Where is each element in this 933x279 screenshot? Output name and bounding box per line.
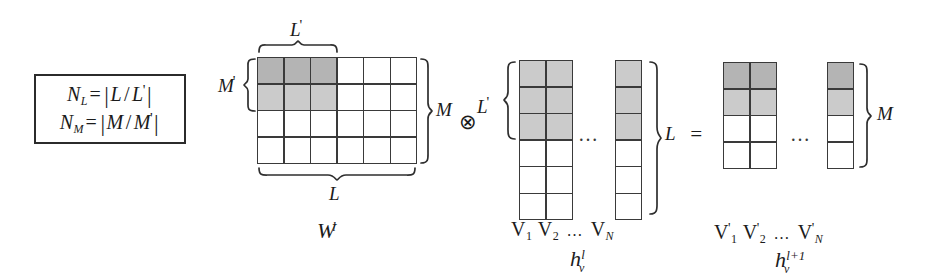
label-l-bottom: L (329, 184, 340, 203)
brace-l-prime-top (258, 40, 338, 53)
activation-cell (724, 116, 749, 141)
output-activation-ellipsis: … (790, 124, 812, 144)
activation-cell (520, 141, 545, 166)
matrix-cell (338, 85, 363, 110)
formula-lhs-subscript: M (74, 122, 84, 136)
activation-cell (751, 143, 776, 168)
activation-cell (828, 116, 853, 141)
label-output-activations-superscript: l+1 (786, 248, 805, 263)
formula-denominator-prime: ' (143, 82, 146, 98)
equals-sign: = (689, 124, 703, 145)
label-m-prime-left-letter: M (218, 75, 234, 96)
brace-l-bottom (258, 167, 416, 181)
activation-cell (616, 167, 641, 192)
column-label-vn-prime: V (798, 221, 813, 243)
activation-cell (616, 194, 641, 219)
label-l-prime-hv-letter: L (477, 96, 488, 117)
column-label-v1-prime-subscript: 1 (731, 232, 738, 246)
matrix-cell (364, 138, 389, 163)
label-m-right: M (436, 100, 452, 119)
matrix-cell (391, 58, 416, 83)
activation-cell (724, 143, 749, 168)
formula-line-n-sub-l: NL=|L/L'| (36, 82, 184, 109)
label-l-right-hv: L (665, 124, 676, 143)
column-label-v2-prime-subscript: 2 (760, 232, 767, 246)
formula-abs-bar-open: | (104, 83, 109, 109)
activation-cell (520, 114, 545, 139)
input-activation-ellipsis: … (578, 124, 600, 144)
matrix-cell (258, 58, 283, 83)
matrix-cell (391, 138, 416, 163)
formula-slash: / (124, 83, 130, 105)
output-activation-last-column (827, 62, 854, 169)
activation-cell (547, 88, 572, 113)
matrix-cell (285, 111, 310, 136)
label-weight-matrix: Wl (317, 220, 336, 242)
label-input-activations-subscript: v (579, 261, 584, 275)
tensor-product-icon: ⊗ (459, 112, 477, 133)
column-label-vn-subscript: N (606, 229, 615, 243)
matrix-cell (258, 85, 283, 110)
formula-equals: = (90, 83, 102, 105)
column-label-ellipsis: … (566, 222, 583, 239)
activation-cell (724, 63, 749, 88)
matrix-cell (258, 111, 283, 136)
activation-cell (616, 141, 641, 166)
activation-cell (520, 61, 545, 86)
brace-m-right (419, 58, 433, 164)
brace-l-prime-hv (503, 61, 516, 140)
activation-cell (616, 61, 641, 86)
column-label-v1-subscript: 1 (526, 229, 533, 243)
input-activation-grid (519, 60, 573, 220)
column-label-ellipsis: … (773, 225, 790, 242)
label-output-activations-subscript: v (784, 262, 789, 276)
formula-denominator-prime: ' (150, 110, 153, 126)
label-output-activations: hvl+1 (775, 249, 805, 275)
formula-abs-bar-close: | (147, 83, 152, 109)
brace-l-right-hv (648, 61, 662, 216)
label-l-prime-hv: L' (477, 95, 489, 116)
column-label-v2: V (538, 218, 553, 240)
label-m-right-output: M (877, 104, 893, 123)
activation-cell (520, 167, 545, 192)
formula-line-n-sub-m: NM=|M/M'| (36, 110, 184, 137)
activation-cell (616, 114, 641, 139)
activation-cell (520, 194, 545, 219)
formula-denominator: M (134, 111, 151, 133)
activation-cell (547, 141, 572, 166)
column-label-vn: V (591, 218, 606, 240)
matrix-cell (311, 58, 336, 83)
input-activation-last-column (615, 60, 642, 220)
matrix-cell (364, 111, 389, 136)
activation-cell (828, 143, 853, 168)
matrix-cell (391, 85, 416, 110)
activation-cell (547, 194, 572, 219)
output-activation-grid (723, 62, 777, 169)
formula-lhs-symbol: N (60, 111, 74, 133)
activation-cell (751, 90, 776, 115)
matrix-cell (258, 138, 283, 163)
matrix-cell (285, 85, 310, 110)
weight-matrix-grid (257, 57, 417, 164)
activation-cell (828, 63, 853, 88)
matrix-cell (311, 85, 336, 110)
activation-cell (828, 90, 853, 115)
formula-equals: = (86, 111, 98, 133)
formula-lhs-subscript: L (81, 94, 88, 108)
matrix-cell (391, 111, 416, 136)
matrix-cell (285, 138, 310, 163)
activation-cell (547, 167, 572, 192)
matrix-cell (364, 85, 389, 110)
figure-canvas: NL=|L/L'| NM=|M/M'| L' M' (0, 0, 933, 279)
label-weight-matrix-superscript: l (332, 219, 336, 234)
label-l-prime-hv-mark: ' (487, 94, 490, 110)
activation-cell (547, 61, 572, 86)
matrix-cell (311, 138, 336, 163)
label-input-activations: hvl (570, 248, 585, 274)
label-l-prime-top-letter: L (290, 19, 301, 40)
activation-cell (520, 88, 545, 113)
matrix-cell (285, 58, 310, 83)
activation-cell (751, 116, 776, 141)
formula-slash: / (126, 111, 132, 133)
formula-box: NL=|L/L'| NM=|M/M'| (34, 74, 186, 144)
